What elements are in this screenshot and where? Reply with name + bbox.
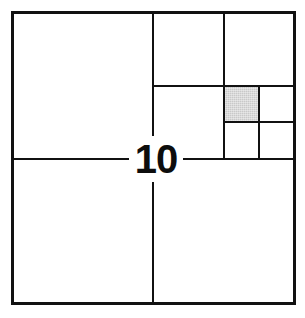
eighth-horizontal-line <box>223 121 296 123</box>
shaded-cell <box>225 87 258 121</box>
mid-horizontal-left-line <box>11 158 132 160</box>
square-subdivision-figure: 10 <box>0 0 305 318</box>
figure-number-label: 10 <box>129 136 183 182</box>
quarter-horizontal-line <box>152 85 296 87</box>
mid-horizontal-right-line <box>181 158 296 160</box>
